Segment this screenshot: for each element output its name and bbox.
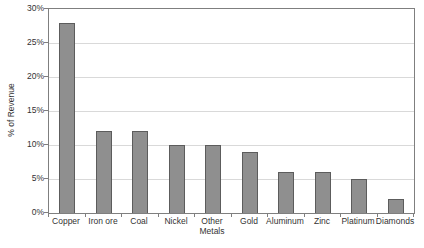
bar-zinc xyxy=(315,172,331,213)
y-tick-label: 25% xyxy=(4,38,44,47)
bar-chart: % of Revenue 0%5%10%15%20%25%30%CopperIr… xyxy=(0,0,424,248)
bar-other-metals xyxy=(205,145,221,213)
y-tick-label: 30% xyxy=(4,4,44,13)
bar-diamonds xyxy=(388,199,404,213)
y-tick-mark xyxy=(44,144,48,145)
y-tick-label: 10% xyxy=(4,140,44,149)
y-tick-label: 5% xyxy=(4,174,44,183)
bar-gold xyxy=(242,152,258,213)
gridline xyxy=(49,77,414,78)
y-tick-mark xyxy=(44,110,48,111)
bar-aluminum xyxy=(278,172,294,213)
y-tick-label: 0% xyxy=(4,208,44,217)
y-tick-label: 20% xyxy=(4,72,44,81)
x-category-label: Diamonds xyxy=(373,217,417,227)
gridline xyxy=(49,111,414,112)
plot-area xyxy=(48,8,415,214)
bar-nickel xyxy=(169,145,185,213)
y-tick-mark xyxy=(44,178,48,179)
y-tick-mark xyxy=(44,8,48,9)
y-tick-mark xyxy=(44,76,48,77)
bar-iron-ore xyxy=(96,131,112,213)
bar-coal xyxy=(132,131,148,213)
bar-copper xyxy=(59,23,75,213)
y-tick-label: 15% xyxy=(4,106,44,115)
gridline xyxy=(49,43,414,44)
bar-platinum xyxy=(351,179,367,213)
y-tick-mark xyxy=(44,42,48,43)
